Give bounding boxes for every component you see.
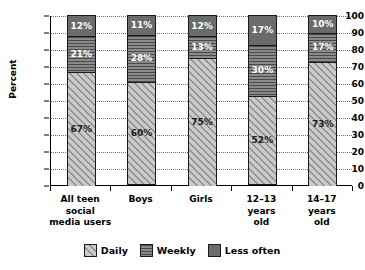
bar-segment-value-label: 10% xyxy=(312,20,334,29)
bar[interactable]: 10%17%73% xyxy=(308,15,337,185)
legend-swatch-icon xyxy=(208,244,221,257)
bar-segment-value-label: 17% xyxy=(252,26,274,35)
x-axis-tick-mark xyxy=(292,186,293,191)
bar-segment[interactable]: 67% xyxy=(68,72,95,186)
legend-item-label: Daily xyxy=(101,245,128,256)
bar-segment[interactable]: 11% xyxy=(128,16,155,35)
y-axis-tick-mark xyxy=(44,16,49,17)
y-axis-tick-mark xyxy=(44,169,49,170)
bar[interactable]: 12%13%75% xyxy=(188,15,217,185)
bar-segment-value-label: 30% xyxy=(252,66,274,75)
y-axis-tick-mark xyxy=(44,101,49,102)
bar-segment-value-label: 13% xyxy=(191,43,213,52)
bar-segment-value-label: 75% xyxy=(191,118,213,127)
y-axis-tick-mark xyxy=(44,33,49,34)
bar-segment-value-label: 60% xyxy=(131,129,153,138)
bar-segment[interactable]: 21% xyxy=(68,36,95,72)
bar-segment[interactable]: 12% xyxy=(189,16,216,36)
bar-segment[interactable]: 10% xyxy=(309,16,336,33)
legend-item[interactable]: Weekly xyxy=(140,244,196,257)
bar-segment-value-label: 73% xyxy=(312,120,334,129)
y-axis-tick-mark xyxy=(44,186,49,187)
y-axis-tick-mark xyxy=(44,67,49,68)
bar-segment[interactable]: 17% xyxy=(249,16,276,45)
y-axis-tick-mark xyxy=(44,152,49,153)
x-axis-tick-mark xyxy=(352,186,353,191)
chart-legend: DailyWeeklyLess often xyxy=(0,244,364,257)
y-axis-tick-mark xyxy=(44,50,49,51)
bar-segment[interactable]: 75% xyxy=(189,58,216,186)
y-axis-title: Percent xyxy=(8,44,18,114)
y-axis-tick-mark xyxy=(44,118,49,119)
bar-segment[interactable]: 28% xyxy=(128,35,155,83)
legend-item-label: Weekly xyxy=(157,245,196,256)
bar-segment-value-label: 28% xyxy=(131,54,153,63)
x-axis-tick-mark xyxy=(110,186,111,191)
x-axis-tick-mark xyxy=(231,186,232,191)
bar-segment-value-label: 52% xyxy=(252,136,274,145)
bar-segment-value-label: 12% xyxy=(191,22,213,31)
bar[interactable]: 11%28%60% xyxy=(127,15,156,185)
x-axis-tick-mark xyxy=(171,186,172,191)
bar-segment[interactable]: 52% xyxy=(249,96,276,184)
legend-item[interactable]: Daily xyxy=(84,244,128,257)
plot-area: 12%21%67%11%28%60%12%13%75%17%30%52%10%1… xyxy=(50,16,352,186)
legend-swatch-icon xyxy=(84,244,97,257)
bar-segment[interactable]: 73% xyxy=(309,62,336,186)
bar-segment[interactable]: 30% xyxy=(249,45,276,96)
bar[interactable]: 17%30%52% xyxy=(248,15,277,185)
bar-segment-value-label: 17% xyxy=(312,43,334,52)
y-axis-tick-mark xyxy=(44,135,49,136)
bar-segment-value-label: 11% xyxy=(131,21,153,30)
x-axis-tick-mark xyxy=(50,186,51,191)
legend-swatch-icon xyxy=(140,244,153,257)
legend-item[interactable]: Less often xyxy=(208,244,281,257)
bar-segment[interactable]: 13% xyxy=(189,36,216,58)
bar-segment-value-label: 21% xyxy=(70,50,92,59)
bar[interactable]: 12%21%67% xyxy=(67,15,96,185)
x-axis-category-label: 14–17 years old xyxy=(279,194,365,229)
bar-segment[interactable]: 12% xyxy=(68,16,95,36)
y-axis-tick-mark xyxy=(44,84,49,85)
bar-segment[interactable]: 17% xyxy=(309,33,336,62)
bar-segment-value-label: 12% xyxy=(70,22,92,31)
legend-item-label: Less often xyxy=(225,245,281,256)
bar-segment[interactable]: 60% xyxy=(128,82,155,184)
bar-segment-value-label: 67% xyxy=(70,125,92,134)
